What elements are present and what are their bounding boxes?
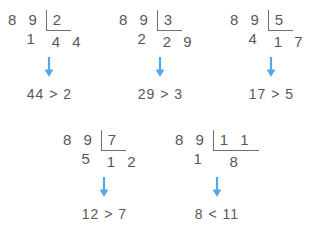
long-division-layout: 8 911 18	[175, 130, 259, 171]
dividend: 8 9	[119, 10, 152, 29]
divisor-quotient-column: 71 2	[101, 130, 146, 171]
divisor: 3	[164, 10, 176, 29]
remainder: 5	[82, 149, 96, 168]
divisor-bracket: 3	[157, 10, 182, 31]
divisor-bracket: 7	[101, 130, 126, 151]
division-problem-divide-by-5: 8 9451 717 > 5	[230, 10, 313, 103]
dividend-column: 8 92	[119, 10, 157, 48]
quotient: 4 4	[46, 31, 91, 51]
down-arrow-icon	[42, 56, 56, 82]
comparison-result: 8 < 11	[195, 205, 239, 223]
remainder: 4	[249, 29, 263, 48]
long-division-layout: 8 9451 7	[230, 10, 313, 51]
division-problem-divide-by-7: 8 9571 212 > 7	[63, 130, 146, 223]
dividend: 8 9	[63, 130, 96, 149]
dividend-column: 8 91	[8, 10, 46, 48]
divisor-quotient-column: 1 18	[213, 130, 259, 171]
division-worksheet: 8 9124 444 > 28 9232 929 > 38 9451 717 >…	[0, 0, 335, 240]
dividend: 8 9	[230, 10, 263, 29]
down-arrow-icon	[97, 176, 111, 202]
divisor-bracket: 1 1	[213, 130, 259, 151]
dividend: 8 9	[175, 130, 208, 149]
quotient: 2 9	[157, 31, 202, 51]
comparison-result: 44 > 2	[27, 85, 72, 103]
division-problem-divide-by-3: 8 9232 929 > 3	[119, 10, 202, 103]
dividend-column: 8 94	[230, 10, 268, 48]
divisor-bracket: 2	[46, 10, 71, 31]
long-division-layout: 8 9571 2	[63, 130, 146, 171]
remainder: 2	[138, 29, 152, 48]
division-problem-divide-by-11: 8 911 188 < 11	[175, 130, 259, 223]
divisor-quotient-column: 51 7	[268, 10, 313, 51]
remainder: 1	[27, 29, 41, 48]
long-division-layout: 8 9124 4	[8, 10, 91, 51]
divisor: 5	[275, 10, 287, 29]
quotient: 1 2	[101, 151, 146, 171]
division-problem-divide-by-2: 8 9124 444 > 2	[8, 10, 91, 103]
divisor-bracket: 5	[268, 10, 293, 31]
divisor: 1 1	[220, 130, 253, 149]
dividend-column: 8 91	[175, 130, 213, 168]
quotient: 1 7	[268, 31, 313, 51]
comparison-result: 12 > 7	[82, 205, 127, 223]
comparison-result: 17 > 5	[249, 85, 294, 103]
dividend-column: 8 95	[63, 130, 101, 168]
divisor: 7	[108, 130, 120, 149]
dividend: 8 9	[8, 10, 41, 29]
down-arrow-icon	[153, 56, 167, 82]
divisor: 2	[53, 10, 65, 29]
long-division-layout: 8 9232 9	[119, 10, 202, 51]
divisor-quotient-column: 32 9	[157, 10, 202, 51]
down-arrow-icon	[264, 56, 278, 82]
comparison-result: 29 > 3	[138, 85, 183, 103]
down-arrow-icon	[210, 176, 224, 202]
divisor-quotient-column: 24 4	[46, 10, 91, 51]
quotient: 8	[224, 151, 248, 171]
remainder: 1	[194, 149, 208, 168]
